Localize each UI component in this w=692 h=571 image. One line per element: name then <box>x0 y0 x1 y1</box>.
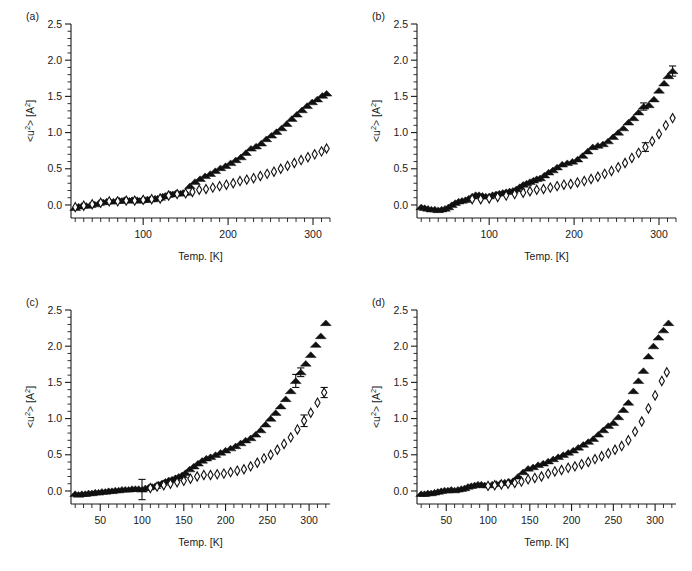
y-tick-label: 2.5 <box>47 18 62 30</box>
y-tick-label: 0.0 <box>393 485 408 497</box>
x-tick-label: 300 <box>650 228 668 240</box>
y-axis-title: <u2> [A2] <box>23 100 37 142</box>
data-point-diamond <box>609 166 614 175</box>
data-point-triangle <box>618 407 629 413</box>
y-tick-label: 2.0 <box>47 340 62 352</box>
data-point-diamond <box>579 460 584 469</box>
data-point-diamond <box>231 179 236 188</box>
data-point-diamond <box>299 155 304 164</box>
y-tick-label: 0.0 <box>47 485 62 497</box>
x-tick-label: 50 <box>440 514 452 526</box>
chart-panel-c: (c)0.00.51.01.52.02.550100150200250300Te… <box>0 286 346 571</box>
data-point-diamond <box>541 184 546 193</box>
data-point-diamond <box>663 121 668 130</box>
data-point-diamond <box>322 388 327 397</box>
y-tick-label: 1.0 <box>47 126 62 138</box>
data-point-diamond <box>288 433 293 442</box>
series-open-diamond <box>485 368 669 491</box>
data-point-triangle <box>270 410 281 416</box>
data-point-triangle <box>623 400 634 406</box>
data-point-diamond <box>559 465 564 474</box>
data-point-triangle <box>653 334 664 340</box>
x-tick-label: 100 <box>134 228 152 240</box>
x-tick-label: 200 <box>217 514 235 526</box>
plot-area-a: 0.00.51.01.52.02.5100200300Temp. [K]<u2>… <box>0 0 346 285</box>
x-axis-title: Temp. [K] <box>178 536 222 548</box>
data-point-diamond <box>632 427 637 436</box>
y-tick-label: 1.0 <box>393 126 408 138</box>
data-point-triangle <box>320 320 331 326</box>
data-point-diamond <box>248 462 253 471</box>
x-axis-ticks: 50100150200250300 <box>75 504 326 526</box>
series-filled-triangle <box>416 320 674 497</box>
y-tick-label: 2.0 <box>393 340 408 352</box>
data-point-diamond <box>646 404 651 413</box>
y-axis-ticks: 0.00.51.01.52.02.5 <box>393 304 417 497</box>
data-point-diamond <box>228 468 233 477</box>
plot-area-b: 0.00.51.01.52.02.5100200300Temp. [K]<u2>… <box>346 0 692 285</box>
data-point-triangle <box>658 327 669 333</box>
data-point-triangle <box>628 388 639 394</box>
y-axis-title: <u2> [A2] <box>369 100 383 142</box>
data-point-diamond <box>602 169 607 178</box>
data-point-diamond <box>616 163 621 172</box>
data-point-triangle <box>659 80 670 86</box>
y-tick-label: 0.0 <box>47 199 62 211</box>
data-point-triangle <box>310 342 321 348</box>
data-point-diamond <box>526 475 531 484</box>
y-tick-label: 0.0 <box>393 199 408 211</box>
chart-panel-d: (d)0.00.51.01.52.02.550100150200250300Te… <box>346 286 692 571</box>
data-point-diamond <box>561 180 566 189</box>
x-axis-title: Temp. [K] <box>524 250 568 262</box>
y-tick-label: 2.5 <box>393 18 408 30</box>
data-point-diamond <box>572 462 577 471</box>
data-point-diamond <box>539 472 544 481</box>
y-tick-label: 0.5 <box>47 162 62 174</box>
data-point-diamond <box>324 144 329 153</box>
x-tick-label: 250 <box>605 514 623 526</box>
data-point-triangle <box>638 368 649 374</box>
data-point-diamond <box>215 470 220 479</box>
data-point-diamond <box>302 416 307 425</box>
data-point-diamond <box>201 470 206 479</box>
x-axis-title: Temp. [K] <box>524 536 568 548</box>
x-tick-label: 250 <box>259 514 277 526</box>
data-point-diamond <box>308 408 313 417</box>
data-point-diamond <box>258 171 263 180</box>
y-axis-title: <u2> [A2] <box>369 386 383 428</box>
data-point-diamond <box>235 466 240 475</box>
data-point-triangle <box>280 396 291 402</box>
data-point-diamond <box>606 449 611 458</box>
data-point-diamond <box>586 457 591 466</box>
data-point-triangle <box>305 352 316 358</box>
data-point-diamond <box>534 185 539 194</box>
series-filled-triangle <box>416 66 678 213</box>
data-point-diamond <box>268 450 273 459</box>
data-point-diamond <box>532 473 537 482</box>
data-point-triangle <box>295 369 306 375</box>
data-point-triangle <box>628 115 639 121</box>
data-point-diamond <box>244 175 249 184</box>
x-tick-label: 100 <box>133 514 151 526</box>
y-tick-label: 0.5 <box>47 448 62 460</box>
data-point-triangle <box>633 378 644 384</box>
x-tick-label: 300 <box>304 228 322 240</box>
data-point-diamond <box>241 465 246 474</box>
data-point-diamond <box>319 147 324 156</box>
data-point-triangle <box>608 420 619 426</box>
data-point-diamond <box>653 391 658 400</box>
data-point-diamond <box>650 137 655 146</box>
x-axis-title: Temp. [K] <box>178 250 222 262</box>
data-point-diamond <box>237 176 242 185</box>
x-tick-label: 100 <box>479 514 497 526</box>
data-point-diamond <box>281 439 286 448</box>
data-point-diamond <box>278 164 283 173</box>
data-point-diamond <box>568 179 573 188</box>
x-tick-label: 300 <box>646 514 664 526</box>
data-point-diamond <box>643 142 648 151</box>
x-tick-label: 300 <box>300 514 318 526</box>
y-axis-title: <u2> [A2] <box>23 386 37 428</box>
data-point-triangle <box>255 427 266 433</box>
y-tick-label: 1.0 <box>393 412 408 424</box>
data-point-triangle <box>300 360 311 366</box>
